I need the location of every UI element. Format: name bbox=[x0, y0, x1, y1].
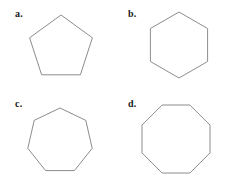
figure-cell-a: a. bbox=[0, 0, 112, 90]
figure-cell-b: b. bbox=[113, 0, 225, 90]
hexagon-shape-icon bbox=[145, 11, 213, 79]
figure-label-a: a. bbox=[15, 9, 23, 19]
figure-cell-d: d. bbox=[113, 90, 225, 180]
octagon-shape-icon bbox=[141, 104, 211, 174]
figure-label-d: d. bbox=[128, 99, 136, 109]
polygon-figure-sheet: a. b. c. d. bbox=[0, 0, 225, 181]
figure-label-c: c. bbox=[15, 99, 22, 109]
figure-cell-c: c. bbox=[0, 90, 112, 180]
figure-label-b: b. bbox=[128, 9, 136, 19]
heptagon-shape-icon bbox=[26, 107, 94, 175]
pentagon-shape-icon bbox=[28, 14, 94, 80]
